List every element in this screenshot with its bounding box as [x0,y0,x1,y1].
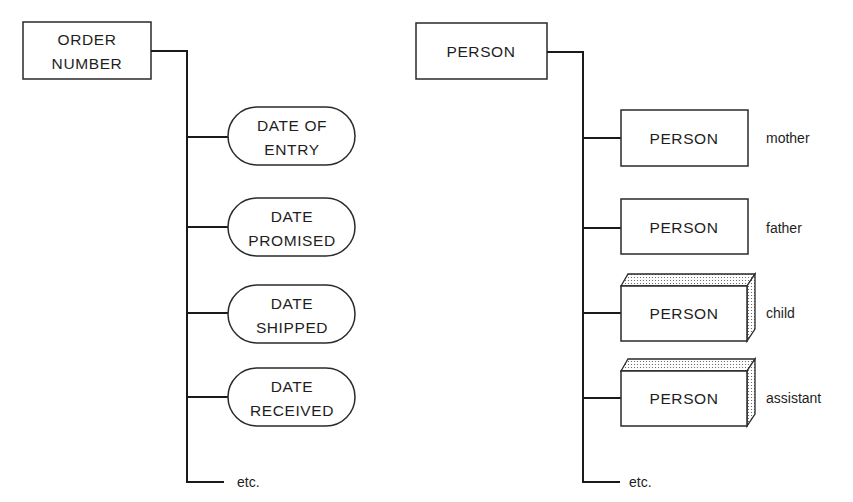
person-label: PERSON [649,305,718,322]
person-root-node[interactable]: PERSON [416,23,547,79]
person-root-label: PERSON [446,43,515,60]
diagram-canvas: ORDER NUMBER DATE OF ENTRY DATE PROMISED… [0,0,853,502]
node-label-line2: PROMISED [248,232,335,249]
node-label-line1: DATE OF [257,117,327,134]
box-top-face [621,274,755,286]
node-label-line1: DATE [271,378,314,395]
right-trunk-connector [547,52,620,482]
node-label-line1: DATE [271,208,314,225]
person-assistant-node[interactable]: PERSON [621,359,755,426]
person-label: PERSON [649,219,718,236]
person-label: PERSON [649,390,718,407]
node-label-line2: SHIPPED [256,319,328,336]
role-label-assistant: assistant [766,390,821,406]
person-diagram: PERSON PERSON mother PERSON father PERSO… [416,23,821,490]
role-label-father: father [766,220,802,236]
box-side-face [747,274,755,341]
node-label-line2: ENTRY [264,141,319,158]
date-received-node[interactable]: DATE RECEIVED [228,368,355,426]
order-number-node[interactable]: ORDER NUMBER [23,22,151,79]
box-top-face [621,359,755,371]
date-shipped-node[interactable]: DATE SHIPPED [228,285,355,343]
person-father-node[interactable]: PERSON [621,199,748,254]
date-promised-node[interactable]: DATE PROMISED [228,198,355,256]
person-label: PERSON [649,130,718,147]
node-label-line1: DATE [271,295,314,312]
date-of-entry-node[interactable]: DATE OF ENTRY [228,107,355,165]
role-label-mother: mother [766,130,810,146]
box-side-face [747,359,755,426]
person-child-node[interactable]: PERSON [621,274,755,341]
right-etc-label: etc. [629,474,652,490]
order-number-label-line1: ORDER [58,31,117,48]
order-number-diagram: ORDER NUMBER DATE OF ENTRY DATE PROMISED… [23,22,355,490]
left-trunk-connector [151,51,224,482]
role-label-child: child [766,305,795,321]
left-etc-label: etc. [237,474,260,490]
person-mother-node[interactable]: PERSON [621,110,748,166]
node-label-line2: RECEIVED [250,402,334,419]
order-number-label-line2: NUMBER [52,55,123,72]
